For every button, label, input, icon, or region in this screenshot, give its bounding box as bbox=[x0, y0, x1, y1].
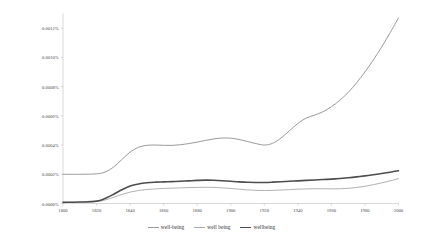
x-axis-tick-label: 1860 bbox=[159, 208, 168, 213]
x-axis-tick-label: 1800 bbox=[58, 208, 67, 213]
y-axis-tick-label: 0.0008% bbox=[6, 84, 59, 89]
legend-item-label: wellbeing bbox=[253, 224, 275, 230]
legend-item-label: well being bbox=[207, 224, 230, 230]
y-axis-tick-label: 0.0012% bbox=[6, 26, 59, 31]
y-axis-tick-label: 0.0010% bbox=[6, 55, 59, 60]
x-axis-tick-label: 1960 bbox=[327, 208, 336, 213]
legend-line-swatch-icon bbox=[194, 227, 205, 228]
legend-item-label: well-being bbox=[161, 224, 185, 230]
y-axis-tick-label: 0.0002% bbox=[6, 172, 59, 177]
x-axis-tick-label: 2000 bbox=[394, 208, 403, 213]
legend-line-swatch-icon bbox=[240, 227, 251, 228]
y-axis-tick-label: 0.0006% bbox=[6, 113, 59, 118]
chart-legend: well-beingwell beingwellbeing bbox=[0, 224, 423, 230]
y-axis-tick-label: 0.0004% bbox=[6, 143, 59, 148]
x-axis-tick-label: 1900 bbox=[226, 208, 235, 213]
axis-lines bbox=[61, 14, 399, 206]
legend-line-swatch-icon bbox=[148, 227, 159, 228]
x-axis-tick-label: 1920 bbox=[260, 208, 269, 213]
series-line-1 bbox=[63, 179, 399, 203]
x-axis-tick-label: 1820 bbox=[92, 208, 101, 213]
y-axis-tick-label: 0.0000% bbox=[6, 201, 59, 206]
x-axis-tick-label: 1940 bbox=[293, 208, 302, 213]
legend-item-well-being[interactable]: well being bbox=[194, 224, 230, 230]
series-lines bbox=[63, 18, 399, 202]
legend-item-well-being[interactable]: well-being bbox=[148, 224, 185, 230]
series-line-0 bbox=[63, 18, 399, 174]
x-axis-tick-label: 1840 bbox=[125, 208, 134, 213]
legend-item-wellbeing[interactable]: wellbeing bbox=[240, 224, 275, 230]
x-axis-tick-label: 1880 bbox=[192, 208, 201, 213]
x-axis-tick-label: 1980 bbox=[360, 208, 369, 213]
ngram-line-chart: 0.0012%0.0010%0.0008%0.0006%0.0004%0.000… bbox=[0, 0, 423, 244]
